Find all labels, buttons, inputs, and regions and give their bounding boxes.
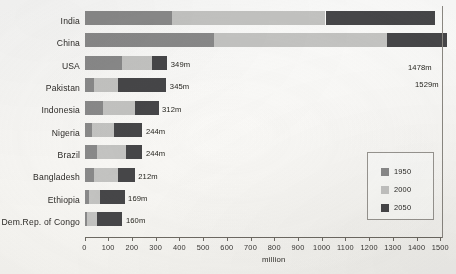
category-label-indonesia: Indonesia [0,105,80,115]
bar-row[interactable] [85,33,448,47]
legend-label-1950: 1950 [394,167,411,176]
bar-segment-2000[interactable] [89,190,100,204]
x-tick [298,237,299,241]
category-label-bangladesh: Bangladesh [0,172,80,182]
category-label-india: India [0,16,80,26]
x-tick [322,237,323,241]
bar-segment-1950[interactable] [85,11,173,25]
plot-right-border [442,6,443,238]
bar-row[interactable] [85,56,168,70]
bar-value-label: 1478m [408,63,432,72]
bar-value-label: 160m [126,216,145,225]
x-tick [345,237,346,241]
bar-segment-2050[interactable] [135,101,159,115]
bar-segment-1950[interactable] [85,56,122,70]
x-tick [440,237,441,241]
bar-segment-1950[interactable] [85,78,94,92]
x-tick-label: 200 [125,243,138,252]
x-tick-label: 100 [102,243,115,252]
bar-segment-2000[interactable] [94,78,118,92]
x-tick-label: 900 [292,243,305,252]
x-tick [417,237,418,241]
bar-row[interactable] [85,190,125,204]
legend-swatch-2050 [381,204,389,212]
bar-segment-1950[interactable] [85,123,93,137]
bar-segment-2000[interactable] [92,123,114,137]
bar-value-label: 312m [162,105,181,114]
bar-row[interactable] [85,101,159,115]
x-tick-label: 500 [197,243,210,252]
x-tick-label: 1100 [337,243,354,252]
x-tick-label: 1400 [408,243,425,252]
bar-segment-2000[interactable] [87,212,96,226]
x-tick [274,237,275,241]
category-label-congo: Dem.Rep. of Congo [0,217,80,227]
x-tick [251,237,252,241]
x-tick [85,237,86,241]
x-tick [393,237,394,241]
legend-swatch-2000 [381,186,389,194]
bar-value-label: 345m [170,82,189,91]
x-tick-label: 1500 [432,243,449,252]
bar-segment-2000[interactable] [94,168,117,182]
bar-segment-1950[interactable] [85,33,214,47]
bar-segment-2050[interactable] [387,33,447,47]
x-tick-label: 1200 [361,243,378,252]
x-tick-label: 1300 [384,243,401,252]
category-label-usa: USA [0,61,80,71]
category-label-nigeria: Nigeria [0,128,80,138]
bar-row[interactable] [85,11,436,25]
x-tick [227,237,228,241]
bar-segment-2050[interactable] [118,168,135,182]
bar-value-label: 244m [146,127,165,136]
x-tick [156,237,157,241]
legend-label-2050: 2050 [394,203,411,212]
bar-segment-2000[interactable] [97,145,125,159]
bar-segment-2050[interactable] [326,11,436,25]
category-label-china: China [0,38,80,48]
bar-segment-2000[interactable] [122,56,152,70]
bar-value-label: 349m [171,60,190,69]
bar-segment-2050[interactable] [126,145,143,159]
x-tick [369,237,370,241]
x-tick [132,237,133,241]
bar-segment-2050[interactable] [118,78,166,92]
x-tick-label: 0 [82,243,86,252]
bar-row[interactable] [85,78,167,92]
bar-segment-1950[interactable] [85,101,104,115]
bar-row[interactable] [85,123,143,137]
bar-value-label: 169m [128,194,147,203]
bar-value-label: 244m [146,149,165,158]
bar-row[interactable] [85,145,143,159]
bar-segment-2050[interactable] [114,123,142,137]
bar-row[interactable] [85,212,123,226]
legend: 1950 2000 2050 [367,152,434,220]
x-tick [108,237,109,241]
bar-segment-2000[interactable] [172,11,325,25]
x-axis-title: million [262,255,286,264]
bar-segment-1950[interactable] [85,168,95,182]
bar-segment-2050[interactable] [100,190,125,204]
x-tick-label: 600 [220,243,233,252]
category-label-brazil: Brazil [0,150,80,160]
bar-segment-2000[interactable] [214,33,387,47]
x-tick-label: 700 [244,243,257,252]
x-tick-label: 400 [173,243,186,252]
bar-segment-2050[interactable] [97,212,123,226]
x-tick-label: 800 [268,243,281,252]
chart-canvas: India China USA Pakistan Indonesia Niger… [0,0,456,274]
bar-value-label: 212m [138,172,157,181]
bar-segment-2000[interactable] [103,101,134,115]
x-tick-label: 1000 [313,243,330,252]
bar-row[interactable] [85,168,135,182]
legend-label-2000: 2000 [394,185,411,194]
bar-segment-1950[interactable] [85,145,98,159]
bar-segment-2050[interactable] [152,56,167,70]
x-tick-label: 300 [149,243,162,252]
bar-value-label: 1529m [415,80,439,89]
x-tick [179,237,180,241]
x-tick [203,237,204,241]
x-axis-line [85,237,443,238]
legend-swatch-1950 [381,168,389,176]
category-label-pakistan: Pakistan [0,83,80,93]
